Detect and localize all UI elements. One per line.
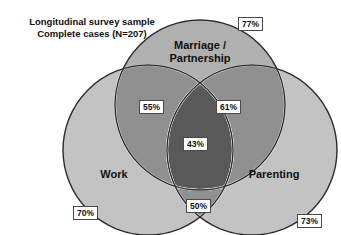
value-parenting-total: 73% bbox=[297, 214, 322, 228]
value-marriage-total: 77% bbox=[238, 17, 263, 31]
value-work-marriage-overlap: 55% bbox=[139, 100, 164, 114]
set-label-marriage-line-2: Partnership bbox=[152, 52, 248, 65]
value-work-parenting-overlap: 50% bbox=[186, 199, 211, 213]
value-triple-overlap: 43% bbox=[183, 137, 208, 151]
set-label-marriage-line-1: Marriage / bbox=[152, 39, 248, 52]
set-label-parenting: Parenting bbox=[238, 168, 310, 181]
venn-diagram-figure: Longitudinal survey sample Complete case… bbox=[0, 0, 341, 235]
caption-line-1: Longitudinal survey sample bbox=[6, 16, 178, 28]
value-marriage-parenting-overlap: 61% bbox=[216, 100, 241, 114]
set-label-marriage: Marriage / Partnership bbox=[152, 39, 248, 65]
value-work-total: 70% bbox=[73, 206, 98, 220]
set-label-work: Work bbox=[86, 168, 142, 181]
figure-caption: Longitudinal survey sample Complete case… bbox=[6, 16, 178, 40]
